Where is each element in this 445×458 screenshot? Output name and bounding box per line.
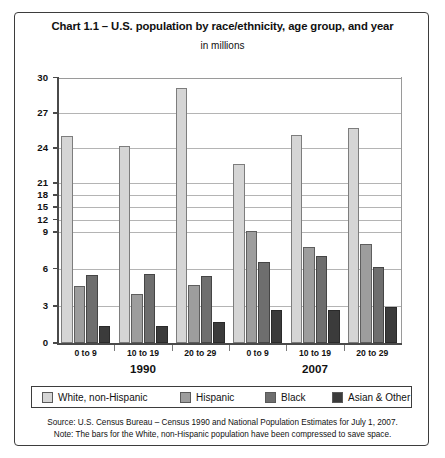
- bar-asian-other-3: [271, 310, 283, 343]
- x-axis-label-4: 10 to 19: [285, 348, 345, 358]
- y-axis-label-3: 3: [14, 300, 48, 311]
- x-axis-label-5: 20 to 29: [342, 348, 402, 358]
- bar-white-non-hispanic-4: [291, 135, 303, 343]
- method-note: Note: The bars for the White, non-Hispan…: [0, 430, 445, 439]
- bar-black-4: [316, 256, 328, 343]
- chart-subtitle: in millions: [0, 40, 445, 51]
- bar-white-non-hispanic-2: [176, 88, 188, 343]
- chart-title: Chart 1.1 – U.S. population by race/ethn…: [0, 20, 445, 32]
- bar-hispanic-2: [188, 285, 200, 343]
- legend-item-3[interactable]: Asian & Other: [332, 392, 410, 403]
- bar-black-3: [258, 262, 270, 343]
- bar-black-0: [86, 275, 98, 343]
- bar-hispanic-1: [131, 294, 143, 344]
- year-label-1990: 1990: [98, 362, 188, 375]
- legend-item-1[interactable]: Hispanic: [180, 392, 234, 403]
- x-axis-label-2: 20 to 29: [170, 348, 230, 358]
- bar-black-1: [144, 274, 156, 344]
- x-axis-label-1: 10 to 19: [113, 348, 173, 358]
- legend-item-2[interactable]: Black: [265, 392, 305, 403]
- y-axis-label-9: 9: [14, 226, 48, 237]
- bar-hispanic-4: [303, 247, 315, 343]
- source-note: Source: U.S. Census Bureau – Census 1990…: [0, 418, 445, 427]
- gridline-27: [57, 113, 402, 114]
- plot-right-edge: [401, 77, 402, 344]
- y-axis-label-12: 12: [14, 214, 48, 225]
- bar-hispanic-5: [360, 244, 372, 343]
- legend-swatch-icon-0: [42, 392, 53, 403]
- bar-white-non-hispanic-5: [348, 128, 360, 343]
- y-axis-label-21: 21: [14, 177, 48, 188]
- legend-swatch-icon-1: [180, 392, 191, 403]
- bar-black-2: [201, 276, 213, 343]
- bar-asian-other-0: [99, 326, 111, 343]
- gridline-30: [57, 78, 402, 79]
- legend-label-0: White, non-Hispanic: [58, 392, 147, 403]
- y-axis-label-27: 27: [14, 107, 48, 118]
- y-axis-label-18: 18: [14, 189, 48, 200]
- legend-label-2: Black: [281, 392, 305, 403]
- bar-hispanic-0: [74, 286, 86, 343]
- bar-white-non-hispanic-1: [119, 146, 131, 343]
- chart-legend: White, non-HispanicHispanicBlackAsian & …: [31, 386, 412, 408]
- bar-asian-other-4: [328, 310, 340, 343]
- bar-asian-other-5: [385, 307, 397, 343]
- legend-swatch-icon-3: [332, 392, 343, 403]
- bar-white-non-hispanic-0: [61, 136, 73, 343]
- y-axis-label-30: 30: [14, 72, 48, 83]
- bar-asian-other-2: [213, 322, 225, 343]
- legend-item-0[interactable]: White, non-Hispanic: [42, 392, 147, 403]
- legend-swatch-icon-2: [265, 392, 276, 403]
- chart-page: Chart 1.1 – U.S. population by race/ethn…: [0, 0, 445, 458]
- y-axis-label-15: 15: [14, 201, 48, 212]
- bar-asian-other-1: [156, 326, 168, 343]
- bar-hispanic-3: [246, 231, 258, 343]
- y-axis-line: [57, 77, 59, 344]
- x-axis-label-3: 0 to 9: [228, 348, 288, 358]
- bar-black-5: [373, 267, 385, 343]
- legend-label-1: Hispanic: [196, 392, 234, 403]
- y-axis-label-0: 0: [14, 337, 48, 348]
- x-axis-label-0: 0 to 9: [56, 348, 116, 358]
- bar-white-non-hispanic-3: [233, 164, 245, 343]
- legend-label-3: Asian & Other: [348, 392, 410, 403]
- y-axis-label-6: 6: [14, 263, 48, 274]
- y-axis-label-24: 24: [14, 142, 48, 153]
- year-label-2007: 2007: [270, 362, 360, 375]
